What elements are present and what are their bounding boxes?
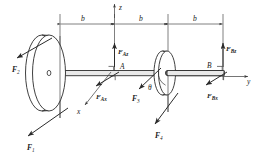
force-f4: F4 xyxy=(155,93,178,141)
force-f1: F1 xyxy=(27,108,68,153)
force-f4-sub: 4 xyxy=(160,135,163,141)
force-f2-sub: 2 xyxy=(17,69,20,75)
angle-theta-label: θ xyxy=(148,83,152,92)
x-axis: x xyxy=(76,72,111,116)
y-axis-label: y xyxy=(246,77,251,86)
force-f3-label: F3 xyxy=(132,94,140,104)
force-f4-arrow xyxy=(155,93,178,124)
shaft-right-segment xyxy=(167,71,224,76)
dimension-label-b2: b xyxy=(139,14,143,23)
right-disk xyxy=(154,51,176,112)
force-f4-label: F4 xyxy=(155,131,163,141)
left-disk-hub xyxy=(47,70,51,75)
bearing-a-mark-upper xyxy=(109,66,114,70)
force-fbz-label: FBz xyxy=(226,45,236,54)
z-axis-label: z xyxy=(118,3,122,12)
force-fax-sub: Ax xyxy=(100,96,107,102)
dimension-label-b3: b xyxy=(193,14,197,23)
dimension-extension-lines xyxy=(60,14,223,118)
force-fbx-sub: Bx xyxy=(211,95,218,101)
force-fbz-sub: Bz xyxy=(230,48,236,54)
shaft-free-body-diagram: b b b z xyxy=(0,0,263,158)
force-fbz: FBz xyxy=(223,43,236,67)
bearing-b-mark-upper xyxy=(217,66,222,70)
force-faz-sub: Az xyxy=(122,51,128,57)
dimension-label-b1: b xyxy=(81,14,85,23)
y-axis: y xyxy=(224,77,251,87)
force-faz-label: FAz xyxy=(118,48,128,57)
left-disk xyxy=(26,35,66,118)
force-fbx-label: FBx xyxy=(207,92,218,101)
force-f3-sub: 3 xyxy=(137,98,140,104)
bearing-b-label: B xyxy=(207,61,212,70)
force-f1-label: F1 xyxy=(27,143,35,153)
figure-canvas: b b b z xyxy=(0,0,263,158)
x-axis-label: x xyxy=(76,107,81,116)
force-fax-label: FAx xyxy=(96,93,107,102)
bearing-a-label: A xyxy=(119,62,125,71)
force-f2-label: F2 xyxy=(12,65,20,75)
z-axis: z xyxy=(115,3,123,19)
shaft-foreground xyxy=(166,71,224,76)
force-f1-arrow xyxy=(28,108,68,136)
force-f1-sub: 1 xyxy=(32,147,35,153)
